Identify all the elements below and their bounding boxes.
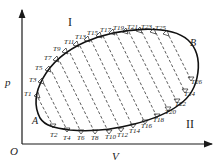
svg-text:T26: T26 xyxy=(191,78,202,86)
svg-text:T22: T22 xyxy=(175,100,186,108)
svg-text:T19: T19 xyxy=(113,24,124,32)
y-axis-label: p xyxy=(4,76,11,88)
svg-text:T3: T3 xyxy=(29,76,37,84)
svg-text:T18: T18 xyxy=(153,116,164,124)
pv-diagram: p V O A B I II T1 T3 T5 T7 T9 T11 T13 T1… xyxy=(0,0,220,168)
point-a-label: A xyxy=(31,115,39,126)
point-b-label: B xyxy=(190,37,196,48)
adiabat-lines xyxy=(38,32,190,131)
region-one-label: I xyxy=(68,15,72,29)
svg-text:T10: T10 xyxy=(105,133,116,141)
svg-text:T20: T20 xyxy=(165,108,176,116)
svg-text:T8: T8 xyxy=(91,134,99,142)
svg-text:T1: T1 xyxy=(24,90,31,98)
svg-text:T25: T25 xyxy=(155,24,166,32)
region-two-label: II xyxy=(186,117,194,131)
svg-text:T16: T16 xyxy=(141,122,152,130)
svg-text:T14: T14 xyxy=(129,127,140,135)
svg-text:T6: T6 xyxy=(77,134,85,142)
svg-text:T12: T12 xyxy=(117,131,128,139)
svg-text:T7: T7 xyxy=(44,54,52,62)
svg-text:T11: T11 xyxy=(64,38,74,46)
svg-text:T2: T2 xyxy=(50,131,58,139)
svg-text:T24: T24 xyxy=(184,90,195,98)
svg-text:T17: T17 xyxy=(100,26,111,34)
x-axis-label: V xyxy=(112,150,120,162)
svg-text:T9: T9 xyxy=(53,45,61,53)
svg-text:T15: T15 xyxy=(87,29,98,37)
svg-text:T13: T13 xyxy=(75,33,86,41)
svg-text:T23: T23 xyxy=(141,23,152,31)
svg-text:T5: T5 xyxy=(35,64,43,72)
upper-isotherm-labels: T1 T3 T5 T7 T9 T11 T13 T15 T17 T19 T21 T… xyxy=(24,23,166,98)
svg-text:T4: T4 xyxy=(63,134,71,142)
lower-isotherm-labels: T2 T4 T6 T8 T10 T12 T14 T16 T18 T20 T22 … xyxy=(50,78,202,142)
origin-label: O xyxy=(10,145,18,157)
svg-text:T21: T21 xyxy=(127,23,138,31)
